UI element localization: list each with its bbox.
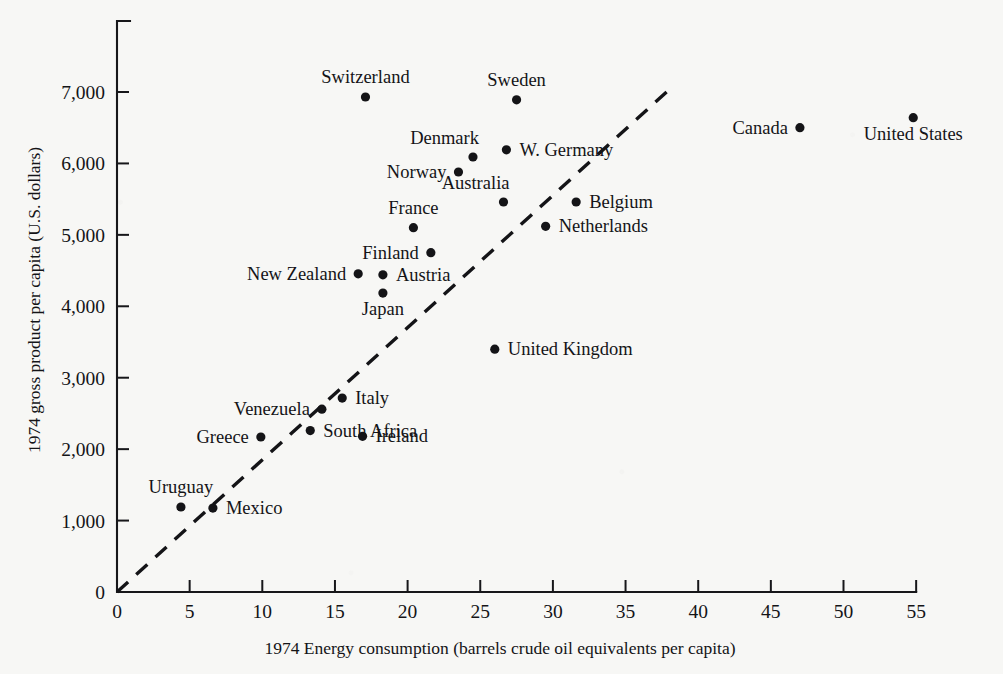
data-point-mexico-marker [208,503,217,512]
data-point-canada-marker [795,123,804,132]
data-point-new-zealand-label: New Zealand [247,264,347,284]
data-point-united-kingdom-label: United Kingdom [508,339,633,359]
x-axis-title: 1974 Energy consumption (barrels crude o… [264,638,735,658]
y-axis-tick-label: 6,000 [61,153,105,174]
y-axis-title: 1974 gross product per capita (U.S. doll… [24,147,44,453]
data-point-sweden-label: Sweden [487,70,546,90]
x-axis-tick-label: 30 [543,601,563,622]
x-axis-tick-label: 35 [616,601,636,622]
data-point-australia-marker [499,197,508,206]
x-axis-tick-label: 40 [688,601,708,622]
data-point-uruguay-marker [176,502,185,511]
data-point-austria-marker [378,270,387,279]
data-point-italy-label: Italy [355,388,390,408]
x-axis-tick-label: 5 [185,601,195,622]
y-axis-tick-label: 3,000 [61,368,105,389]
data-point-austria-label: Austria [396,265,450,285]
data-point-canada-label: Canada [732,118,787,138]
chart-figure: 01,0002,0003,0004,0005,0006,0007,0000510… [0,0,1003,674]
x-axis-tick-label: 10 [253,601,273,622]
y-axis-tick-label: 1,000 [61,511,105,532]
x-axis-tick-label: 55 [906,601,926,622]
y-axis-tick-label: 2,000 [61,439,105,460]
data-point-denmark-marker [468,152,477,161]
data-point-switzerland-label: Switzerland [321,67,410,87]
data-point-australia-label: Australia [442,173,510,193]
data-point-netherlands-marker [541,222,550,231]
data-point-netherlands-label: Netherlands [559,216,648,236]
x-axis-tick-label: 20 [398,601,418,622]
data-point-norway-label: Norway [387,162,447,182]
y-axis-tick-label: 5,000 [61,225,105,246]
data-point-finland-label: Finland [362,243,419,263]
x-axis-tick-label: 50 [834,601,854,622]
data-point-venezuela-label: Venezuela [234,399,310,419]
data-point-united-states-marker [909,113,918,122]
data-point-new-zealand-marker [354,269,363,278]
data-point-w-germany-label: W. Germany [519,140,614,160]
data-point-italy-marker [338,393,347,402]
x-axis-tick-label: 25 [471,601,491,622]
data-point-denmark-label: Denmark [410,128,480,148]
data-point-sweden-marker [512,95,521,104]
y-axis-tick-label: 4,000 [61,296,105,317]
scatter-plot-canvas: 01,0002,0003,0004,0005,0006,0007,0000510… [0,0,1003,674]
y-axis-tick-label: 7,000 [61,82,105,103]
data-point-switzerland-marker [361,92,370,101]
x-axis-tick-label: 45 [761,601,781,622]
x-axis-tick-label: 15 [325,601,345,622]
data-point-mexico-label: Mexico [226,498,283,518]
data-point-south-africa-label: South Africa [323,421,417,441]
data-point-w-germany-marker [502,145,511,154]
data-point-japan-label: Japan [362,299,404,319]
data-point-venezuela-marker [317,405,326,414]
data-point-uruguay-label: Uruguay [149,477,214,497]
data-point-greece-label: Greece [196,427,248,447]
data-point-france-label: France [388,198,438,218]
data-point-belgium-label: Belgium [589,192,653,212]
data-point-france-marker [409,223,418,232]
data-point-greece-marker [256,432,265,441]
data-point-japan-marker [378,288,387,297]
data-point-south-africa-marker [306,426,315,435]
data-point-belgium-marker [572,197,581,206]
x-axis-tick-label: 0 [112,601,122,622]
y-axis-tick-label: 0 [95,582,105,603]
data-point-finland-marker [426,248,435,257]
axes-group: 01,0002,0003,0004,0005,0006,0007,0000510… [61,21,926,622]
data-point-united-states-label: United States [864,124,963,144]
data-point-united-kingdom-marker [490,345,499,354]
